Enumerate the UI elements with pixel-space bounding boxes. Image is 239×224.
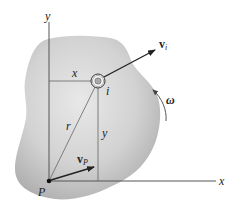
position-vector-label: r	[66, 119, 71, 133]
point-p-dot	[47, 179, 52, 184]
y-axis-label: y	[44, 9, 51, 23]
angular-velocity-label: ω	[166, 93, 175, 107]
x-axis-label: x	[218, 174, 225, 188]
velocity-vi-label: vi	[159, 37, 167, 52]
point-p-label: P	[37, 185, 46, 199]
rigid-body-shape	[15, 36, 160, 200]
particle-i	[91, 74, 105, 88]
particle-i-label: i	[106, 84, 109, 98]
x-dimension-label: x	[71, 66, 78, 80]
y-dimension-label: y	[101, 126, 108, 140]
rigid-body-diagram: y x x y r vP P vi i ω	[0, 0, 239, 224]
